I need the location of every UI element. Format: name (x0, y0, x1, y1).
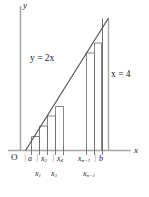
riemann-sum-figure: y x O y = 2x x = 4 a x2 x4 xn−2 b | | | … (0, 0, 149, 197)
label-separator-1: | (24, 154, 26, 162)
figure-canvas (0, 0, 149, 197)
line-equation-label: y = 2x (30, 54, 54, 64)
rectangle-3 (48, 116, 56, 151)
tick-label-x3-sub: 3 (55, 173, 57, 178)
tick-label-x1: x1 (35, 170, 41, 178)
label-separator-3: | (52, 154, 54, 162)
tick-label-x2-sub: 2 (45, 158, 47, 163)
x-axis-label: x (134, 146, 138, 155)
line-equation-text: y = 2x (30, 53, 54, 63)
rectangle-n-minus-2 (87, 53, 95, 151)
tick-label-x1-sub: 1 (39, 173, 41, 178)
line-y-equals-2x (26, 18, 109, 151)
tick-label-x2: x2 (41, 155, 47, 163)
tick-label-a: a (28, 155, 32, 163)
rectangle-n-minus-1 (95, 43, 102, 151)
origin-label: O (11, 153, 18, 162)
rectangle-2 (40, 126, 48, 151)
tick-label-b: b (99, 155, 103, 163)
label-separator-2: | (36, 154, 38, 162)
tick-label-xn-1: xn−1 (83, 170, 95, 178)
tick-label-x4-sub: 4 (61, 158, 63, 163)
tick-label-x4: x4 (57, 155, 63, 163)
rectangle-4 (56, 107, 64, 151)
tick-label-xn-1-sub: n−1 (87, 173, 95, 178)
tick-label-x3: x3 (51, 170, 57, 178)
rectangle-group-left (32, 107, 64, 151)
tick-label-xn-2-sub: n−2 (82, 158, 90, 163)
tick-label-xn-2: xn−2 (78, 155, 90, 163)
vertical-line-equation-label: x = 4 (111, 70, 131, 80)
label-separator-4: | (94, 154, 96, 162)
tick-label-a-base: a (28, 154, 32, 163)
rectangle-group-right (87, 43, 102, 151)
y-axis-label: y (23, 1, 27, 10)
tick-label-b-base: b (99, 154, 103, 163)
vertical-line-equation-text: x = 4 (111, 69, 131, 79)
